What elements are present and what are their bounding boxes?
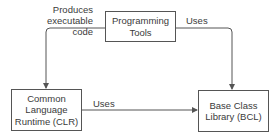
arrow-tools-to-bcl [175, 28, 232, 89]
node-label: Common [27, 93, 66, 104]
node-label: Library (BCL) [205, 111, 262, 122]
node-label: Base Class [209, 100, 257, 111]
node-programming-tools: ProgrammingTools [105, 11, 176, 42]
node-clr: CommonLanguageRuntime (CLR) [11, 89, 82, 131]
edge-label-produces: Produces executable code [47, 4, 93, 37]
node-label: Programming [112, 15, 169, 26]
node-label: Runtime (CLR) [15, 116, 78, 127]
node-label: Tools [129, 27, 151, 38]
node-label: Language [25, 104, 67, 115]
node-bcl: Base ClassLibrary (BCL) [198, 90, 269, 132]
arrow-tools-to-clr [46, 28, 105, 88]
edge-label-uses-bottom: Uses [93, 98, 115, 109]
edge-label-uses-top: Uses [186, 15, 208, 26]
